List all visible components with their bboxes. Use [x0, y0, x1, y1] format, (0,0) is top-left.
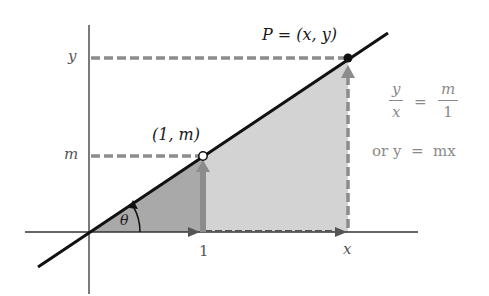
label-y-tick: y — [68, 49, 76, 64]
fraction-m-over-1: m 1 — [438, 80, 458, 121]
label-point-one-m: (1, m) — [152, 127, 200, 143]
frac-right-den: 1 — [438, 101, 458, 121]
point-one-m — [199, 152, 207, 160]
frac-right-num: m — [438, 80, 458, 101]
equals-sign: = — [414, 93, 427, 111]
label-theta: θ — [120, 213, 128, 227]
arrow-1-shaft — [200, 170, 206, 232]
equation-line2: or y = mx — [372, 142, 456, 160]
label-m-tick: m — [64, 147, 78, 162]
label-point-p: P = (x, y) — [262, 27, 337, 43]
frac-left-den: x — [389, 101, 403, 121]
label-one-tick: 1 — [199, 244, 209, 259]
label-x-tick: x — [343, 242, 351, 257]
frac-left-num: y — [389, 80, 403, 101]
point-p — [344, 54, 353, 63]
fraction-y-over-x: y x — [389, 80, 403, 121]
